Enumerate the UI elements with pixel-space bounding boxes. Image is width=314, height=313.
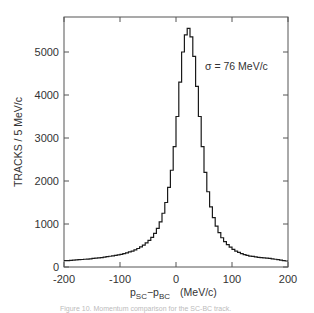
histogram-chart: -200-1000100200 010002000300040005000 σ … bbox=[0, 0, 314, 313]
y-axis-title: TRACKS / 5 MeV/c bbox=[12, 97, 24, 187]
x-tick-label: -100 bbox=[109, 273, 131, 285]
figure-caption: Figure 10. Momentum comparison for the S… bbox=[60, 305, 231, 313]
y-tick-label: 2000 bbox=[35, 175, 59, 187]
y-tick-label: 3000 bbox=[35, 132, 59, 144]
x-axis-title-sub1: SC bbox=[136, 292, 147, 301]
x-ticks: -200-1000100200 bbox=[53, 17, 297, 285]
y-tick-label: 0 bbox=[53, 261, 59, 273]
x-tick-label: 0 bbox=[173, 273, 179, 285]
y-ticks: 010002000300040005000 bbox=[35, 46, 288, 273]
x-axis-title: pSC−pBC(MeV/c) bbox=[130, 286, 217, 301]
x-axis-title-units: (MeV/c) bbox=[180, 286, 217, 298]
y-tick-label: 4000 bbox=[35, 89, 59, 101]
x-tick-label: 100 bbox=[223, 273, 241, 285]
x-tick-label: 200 bbox=[279, 273, 297, 285]
x-tick-label: -200 bbox=[53, 273, 75, 285]
x-axis-title-sub2: BC bbox=[159, 292, 170, 301]
sigma-annotation: σ = 76 MeV/c bbox=[205, 60, 268, 72]
y-tick-label: 1000 bbox=[35, 218, 59, 230]
y-tick-label: 5000 bbox=[35, 46, 59, 58]
